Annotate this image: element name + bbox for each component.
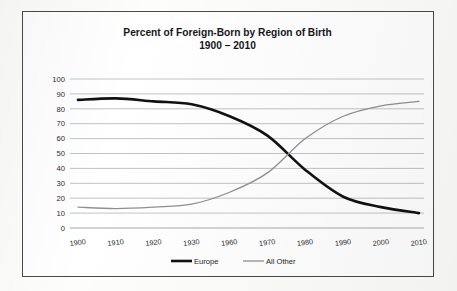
y-tick-label: 60 xyxy=(57,134,65,143)
chart-title: Percent of Foreign-Born by Region of Bir… xyxy=(123,27,331,38)
x-tick-label: 1990 xyxy=(334,237,351,248)
y-tick-label: 50 xyxy=(57,149,65,158)
y-tick-label: 80 xyxy=(57,105,65,114)
x-tick-label: 1930 xyxy=(183,237,200,248)
y-tick-label: 100 xyxy=(52,75,65,84)
series-line-all-other xyxy=(78,101,419,208)
x-tick-label: 1920 xyxy=(145,237,162,248)
chart-legend: EuropeAll Other xyxy=(171,257,296,266)
y-tick-label: 0 xyxy=(61,224,65,233)
line-chart: Percent of Foreign-Born by Region of Bir… xyxy=(23,12,432,275)
scanned-page: Percent of Foreign-Born by Region of Bir… xyxy=(0,0,457,291)
x-tick-label: 1900 xyxy=(69,237,86,248)
y-tick-label: 40 xyxy=(57,164,65,173)
y-tick-label: 20 xyxy=(57,194,65,203)
x-tick-label: 2000 xyxy=(372,237,389,248)
chart-subtitle: 1900 – 2010 xyxy=(199,40,256,51)
x-tick-label: 1970 xyxy=(259,237,276,248)
x-tick-label: 1960 xyxy=(221,237,238,248)
data-series-group xyxy=(78,98,419,213)
legend-label[interactable]: Europe xyxy=(194,257,219,266)
y-axis-tick-labels: 0102030405060708090100 xyxy=(52,75,65,233)
series-line-europe xyxy=(78,98,419,213)
x-tick-label: 1910 xyxy=(107,237,124,248)
legend-label[interactable]: All Other xyxy=(266,257,296,266)
chart-frame: Percent of Foreign-Born by Region of Bir… xyxy=(22,11,434,277)
y-tick-label: 30 xyxy=(57,179,65,188)
x-tick-label: 1980 xyxy=(296,237,313,248)
y-tick-label: 70 xyxy=(57,119,65,128)
y-tick-label: 10 xyxy=(57,209,65,218)
y-tick-label: 90 xyxy=(57,90,65,99)
x-tick-label: 2010 xyxy=(410,237,427,248)
x-axis-tick-labels: 1900191019201930196019701980199020002010 xyxy=(69,237,427,248)
